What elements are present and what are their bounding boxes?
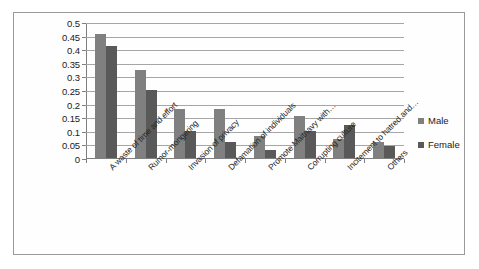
x-axis-tick-mark (245, 159, 246, 163)
legend-item-label: Male (428, 115, 449, 126)
square-swatch-icon (418, 118, 424, 124)
chart-legend: MaleFemale (418, 115, 460, 150)
bar-group (245, 22, 285, 158)
bar-female[interactable] (305, 131, 316, 158)
bar-male[interactable] (294, 116, 305, 158)
bar-male[interactable] (135, 70, 146, 158)
y-axis-tick-label: 0.1 (67, 126, 80, 137)
y-axis-tick-label: 0.45 (62, 31, 80, 42)
x-axis-tick-mark (126, 159, 127, 163)
bar-male[interactable] (174, 109, 185, 158)
bar-female[interactable] (146, 90, 157, 158)
y-axis-tick-label: 0.25 (62, 86, 80, 97)
x-axis-tick-mark (364, 159, 365, 163)
x-axis-tick-mark (404, 159, 405, 163)
bar-group (364, 22, 404, 158)
bar-group (285, 22, 325, 158)
bar-male[interactable] (95, 34, 106, 158)
y-axis-tick-label: 0.35 (62, 58, 80, 69)
plot-area: 0.50.450.40.350.30.250.20.150.10.050 (86, 23, 404, 159)
bar-female[interactable] (344, 125, 355, 158)
y-axis-tick-label: 0 (75, 154, 80, 165)
x-axis-tick-mark (86, 159, 87, 163)
x-axis-tick-mark (285, 159, 286, 163)
bar-group (325, 22, 365, 158)
y-axis-tick-label: 0.4 (67, 45, 80, 56)
bar-female[interactable] (265, 150, 276, 158)
bar-group (126, 22, 166, 158)
legend-item-male[interactable]: Male (418, 115, 460, 126)
x-axis-tick-mark (325, 159, 326, 163)
y-axis-tick-label: 0.2 (67, 99, 80, 110)
legend-item-label: Female (428, 139, 460, 150)
bar-female[interactable] (106, 46, 117, 158)
bar-female[interactable] (225, 142, 236, 158)
bar-male[interactable] (254, 136, 265, 158)
bar-group (166, 22, 206, 158)
legend-item-female[interactable]: Female (418, 139, 460, 150)
y-axis-tick-label: 0.3 (67, 72, 80, 83)
x-axis-tick-mark (166, 159, 167, 163)
x-axis-tick-mark (205, 159, 206, 163)
bar-male[interactable] (214, 109, 225, 158)
bar-female[interactable] (384, 146, 395, 158)
chart-frame: 0.50.450.40.350.30.250.20.150.10.050 A w… (13, 12, 465, 255)
y-axis-tick-label: 0.15 (62, 113, 80, 124)
bar-group (205, 22, 245, 158)
bar-group (86, 22, 126, 158)
bar-female[interactable] (185, 131, 196, 158)
bar-male[interactable] (333, 139, 344, 158)
square-swatch-icon (418, 142, 424, 148)
bar-male[interactable] (373, 142, 384, 158)
y-axis-tick-label: 0.05 (62, 140, 80, 151)
y-axis-tick-label: 0.5 (67, 18, 80, 29)
